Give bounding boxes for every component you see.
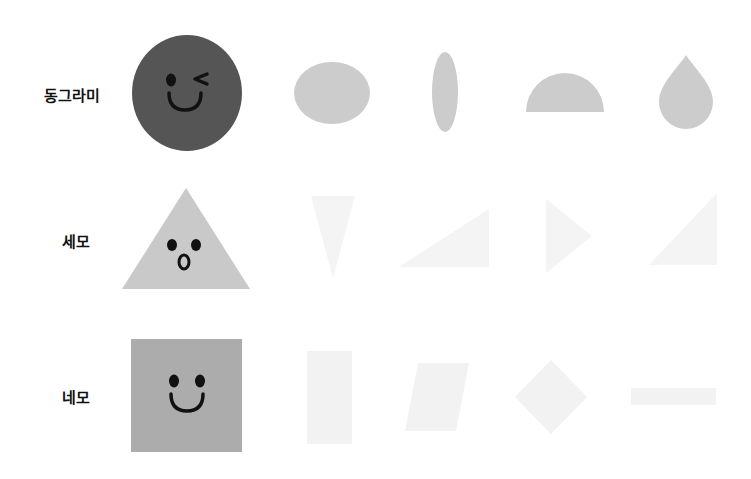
thin-ellipse-shape-icon xyxy=(431,51,459,133)
square-smile-face-icon xyxy=(131,339,243,453)
triangle-surprised-face-icon xyxy=(121,187,251,291)
right-triangle-tall-shape-icon xyxy=(648,192,718,266)
row-label-circle: 동그라미 xyxy=(20,84,100,105)
semicircle-shape-icon xyxy=(525,71,605,113)
circle-wink-face-icon xyxy=(131,34,243,152)
horizontal-bar-shape-icon xyxy=(631,388,717,406)
diamond-shape-icon xyxy=(514,359,588,435)
tall-rectangle-shape-icon xyxy=(307,351,353,445)
row-label-triangle: 세모 xyxy=(10,230,90,251)
right-pointing-triangle-shape-icon xyxy=(545,198,593,274)
cut-off-header-text: · · · · · · · · · · · · · · · xyxy=(40,0,170,5)
inverted-triangle-shape-icon xyxy=(310,195,356,279)
oval-shape-icon xyxy=(293,61,371,125)
row-label-square: 네모 xyxy=(10,386,90,407)
teardrop-shape-icon xyxy=(658,54,714,130)
parallelogram-shape-icon xyxy=(404,362,470,432)
right-triangle-wide-shape-icon xyxy=(398,208,490,268)
